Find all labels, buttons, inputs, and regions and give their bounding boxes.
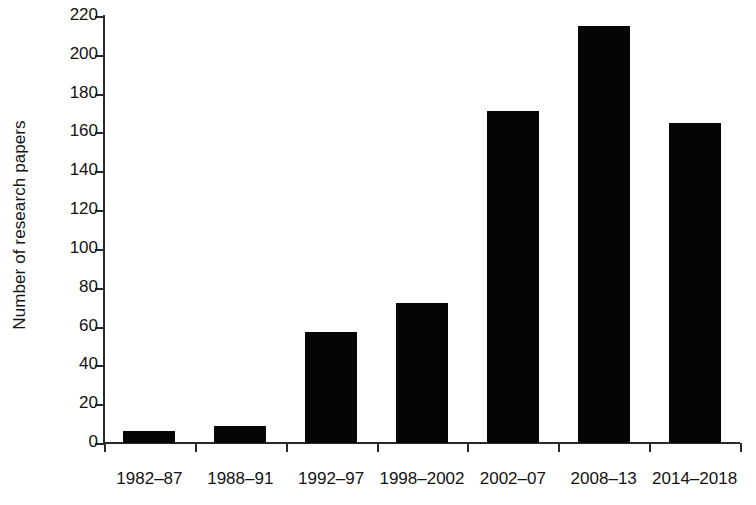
x-tick-mark	[558, 443, 560, 452]
bar-chart: Number of research papers 02040608010012…	[0, 0, 756, 505]
x-tick-mark	[104, 443, 106, 452]
x-tick-mark	[286, 443, 288, 452]
x-axis-label: 1988–91	[189, 468, 292, 490]
bar	[396, 303, 448, 443]
x-axis-label: 1998–2002	[371, 468, 474, 490]
x-axis-label: 1992–97	[280, 468, 383, 490]
y-tick-label: 40	[79, 354, 98, 374]
y-tick-label: 180	[70, 83, 98, 103]
y-tick-label: 60	[79, 316, 98, 336]
bar	[487, 111, 539, 443]
bar	[305, 332, 357, 443]
x-tick-mark	[740, 443, 742, 452]
x-axis-label: 2008–13	[552, 468, 655, 490]
bar	[214, 426, 266, 443]
y-axis-title-text: Number of research papers	[10, 120, 30, 329]
y-tick-label: 160	[70, 121, 98, 141]
y-tick-label: 80	[79, 277, 98, 297]
y-tick-label: 100	[70, 238, 98, 258]
y-tick-label: 140	[70, 160, 98, 180]
x-tick-mark	[195, 443, 197, 452]
x-tick-mark	[467, 443, 469, 452]
y-tick-label: 200	[70, 44, 98, 64]
x-tick-mark	[649, 443, 651, 452]
bar	[669, 123, 721, 443]
y-tick-label: 220	[70, 5, 98, 25]
bar	[123, 431, 175, 443]
y-tick-label: 120	[70, 199, 98, 219]
y-tick-label: 20	[79, 393, 98, 413]
bar	[578, 26, 630, 443]
x-axis-label: 1982–87	[98, 468, 201, 490]
y-tick-label: 0	[89, 432, 98, 452]
x-tick-mark	[377, 443, 379, 452]
x-axis-label: 2002–07	[461, 468, 564, 490]
y-axis-title: Number of research papers	[0, 0, 40, 450]
plot-area: 020406080100120140160180200220 1982–8719…	[104, 16, 740, 443]
x-axis-label: 2014–2018	[643, 468, 746, 490]
